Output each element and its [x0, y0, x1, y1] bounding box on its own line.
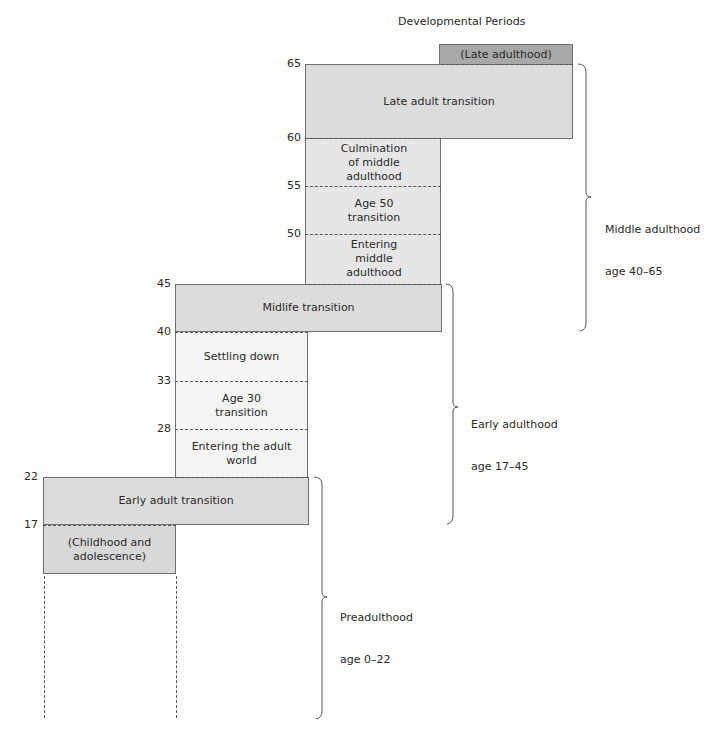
era-name: Preadulthood [340, 611, 413, 625]
brace-preadulthood [314, 477, 327, 719]
era-label-middle-adulthood: Middle adulthood age 40–65 [605, 195, 700, 293]
era-name: Early adulthood [471, 418, 558, 432]
brace-early-adulthood [446, 284, 458, 524]
era-label-preadulthood: Preadulthood age 0–22 [340, 583, 413, 681]
era-range: age 0–22 [340, 653, 413, 667]
era-name: Middle adulthood [605, 223, 700, 237]
era-range: age 17–45 [471, 460, 558, 474]
era-label-early-adulthood: Early adulthood age 17–45 [471, 390, 558, 488]
brace-middle-adulthood [578, 64, 591, 331]
era-range: age 40–65 [605, 265, 700, 279]
